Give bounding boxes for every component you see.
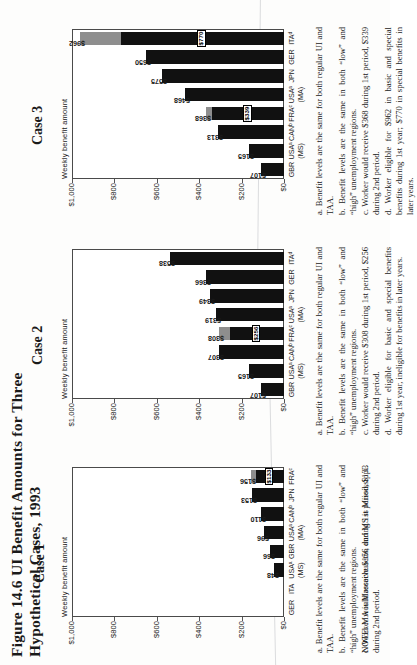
bar-value-label: $165 <box>238 152 254 161</box>
y-tick-mark <box>284 179 285 183</box>
y-tick-mark <box>114 179 115 183</box>
bar-jpn-case-3 <box>162 69 284 83</box>
y-tick-mark <box>72 179 73 183</box>
bar-value-label: $313 <box>207 133 223 142</box>
x-category-label: ITAᵈ <box>287 25 296 52</box>
y-tick-label: $0 <box>279 183 288 215</box>
bar-segment-dark <box>146 50 284 64</box>
y-tick-label: $200 <box>237 183 246 215</box>
figure-note: NOTE: MA is Massachusetts, and MS is Mis… <box>360 466 370 653</box>
bar-ger-case-3 <box>146 50 284 64</box>
bar-value-label: $575 <box>151 77 167 86</box>
bar-segment-gray <box>80 32 121 46</box>
bar-ita-case-3 <box>80 32 284 46</box>
bar-value-label: $107 <box>250 171 266 180</box>
bar-segment-dark <box>218 125 284 139</box>
y-tick-label: $800 <box>109 183 118 215</box>
y-tick-label: $600 <box>152 183 161 215</box>
y-tick-label: $400 <box>194 183 203 215</box>
bar-inner-value-label: $339 <box>243 105 252 123</box>
bar-usa-case-3 <box>185 88 284 102</box>
footnote: c. Worker would receive $368 during 1st … <box>360 27 382 215</box>
y-tick-label: $1,000 <box>67 183 76 215</box>
bar-value-label: $962 <box>69 39 85 48</box>
bar-segment-dark <box>249 144 284 158</box>
footnote: b. Benefit levels are the same in both “… <box>337 27 359 215</box>
bar-value-label: $468 <box>174 96 190 105</box>
bar-segment-dark <box>162 69 284 83</box>
bar-value-label: $650 <box>135 58 151 67</box>
footnote: d. Worker eligible for $962 in basic and… <box>383 27 416 215</box>
bar-value-label: $368 <box>195 114 211 123</box>
x-category-sublabel: (MA) <box>296 79 305 110</box>
y-tick-mark <box>199 179 200 183</box>
bar-segment-dark <box>185 88 284 102</box>
y-tick-mark <box>157 179 158 183</box>
footnote: a. Benefit levels are the same for both … <box>314 27 336 215</box>
x-category-sublabel: (MS) <box>296 136 305 167</box>
chart-title-case-3: Case 3 <box>30 106 46 145</box>
bar-usa-case-3 <box>249 144 284 158</box>
y-axis-label: Weekly benefit amount <box>60 99 69 179</box>
bar-can-case-3 <box>218 125 284 139</box>
bar-inner-value-label: $770 <box>197 30 206 48</box>
y-tick-mark <box>242 179 243 183</box>
footnotes-case-3: a. Benefit levels are the same for both … <box>314 27 417 215</box>
